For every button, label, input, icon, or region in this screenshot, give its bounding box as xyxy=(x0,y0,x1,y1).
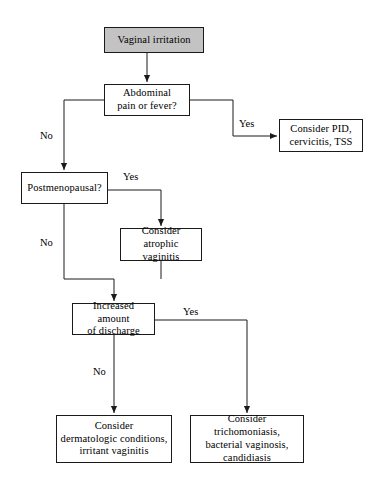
label-postmenopausal-no: No xyxy=(40,238,53,249)
node-label: Consider PID, cervicitis, TSS xyxy=(289,123,352,149)
arrowhead-abdominal-no-to-postmenopausal xyxy=(61,163,67,170)
node-label: Increased amount of discharge xyxy=(76,300,151,338)
node-label: Postmenopausal? xyxy=(27,182,101,195)
node-consider_pid: Consider PID, cervicitis, TSS xyxy=(279,119,363,152)
flowchart-canvas: Vaginal irritationAbdominal pain or feve… xyxy=(0,0,386,490)
node-abdominal: Abdominal pain or fever? xyxy=(104,84,190,116)
node-label: Abdominal pain or fever? xyxy=(117,87,177,113)
node-label: Vaginal irritation xyxy=(117,34,190,47)
node-label: Consider atrophic vaginitis xyxy=(124,225,198,263)
node-trichomoniasis: Consider trichomoniasis, bacterial vagin… xyxy=(190,415,304,463)
node-dermatologic: Consider dermatologic conditions, irrita… xyxy=(56,415,172,463)
edge-abdominal-yes-to-pid xyxy=(190,100,277,136)
node-label: Consider trichomoniasis, bacterial vagin… xyxy=(194,413,300,464)
arrowhead-start-to-abdominal xyxy=(144,75,150,82)
node-label: Consider dermatologic conditions, irrita… xyxy=(61,420,168,458)
arrowhead-abdominal-yes-to-pid xyxy=(270,133,277,139)
label-postmenopausal-yes: Yes xyxy=(123,172,138,183)
label-abdominal-yes: Yes xyxy=(239,119,254,130)
edge-postmenopausal-yes-to-atrophic xyxy=(108,190,161,226)
node-start: Vaginal irritation xyxy=(104,27,204,53)
label-discharge-yes: Yes xyxy=(183,307,198,318)
arrowhead-discharge-yes-to-trichomoniasis xyxy=(244,406,250,413)
node-postmenopausal: Postmenopausal? xyxy=(21,172,108,204)
node-discharge: Increased amount of discharge xyxy=(72,303,155,335)
edge-abdominal-no-to-postmenopausal xyxy=(64,100,104,170)
node-atrophic: Consider atrophic vaginitis xyxy=(120,228,202,261)
label-discharge-no: No xyxy=(93,367,106,378)
label-abdominal-no: No xyxy=(40,131,53,142)
edge-postmenopausal-no-to-discharge xyxy=(64,204,114,301)
arrowhead-discharge-no-to-dermatologic xyxy=(111,406,117,413)
edge-discharge-yes-to-trichomoniasis xyxy=(155,320,247,413)
